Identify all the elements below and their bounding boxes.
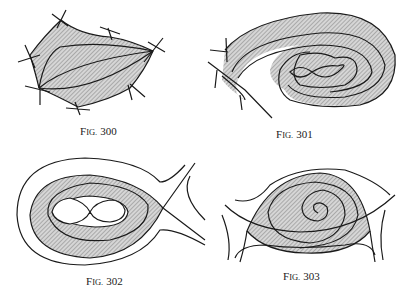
figure-300 <box>18 10 165 115</box>
diagram-canvas: FIG.300 FIG.301 FIG.302 FIG.303 <box>0 0 409 302</box>
fig301-caption: FIG.301 <box>276 128 313 140</box>
figure-302 <box>17 158 205 265</box>
fig303-caption: FIG.303 <box>283 270 320 282</box>
fig301-shaded-band <box>222 13 395 106</box>
figure-303 <box>222 169 395 262</box>
fig300-caption: FIG.300 <box>80 125 117 137</box>
fig302-caption: FIG.302 <box>86 275 123 287</box>
fig303-shaded-region <box>247 173 370 253</box>
figure-301 <box>208 13 395 118</box>
